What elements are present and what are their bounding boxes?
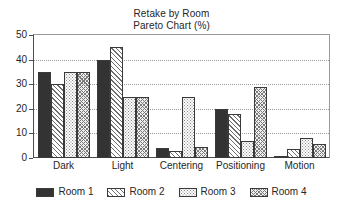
chart-title-block: Retake by Room Pareto Chart (%) [0, 8, 343, 32]
bar-group [211, 35, 270, 158]
bar[interactable] [136, 97, 149, 159]
bar[interactable] [38, 72, 51, 158]
bar[interactable] [228, 114, 241, 158]
bar[interactable] [156, 148, 169, 158]
chart-title: Retake by Room [0, 8, 343, 20]
bar[interactable] [287, 149, 300, 158]
bar-group [34, 35, 93, 158]
pareto-chart: Retake by Room Pareto Chart (%) 01020304… [0, 0, 343, 210]
y-tick-label: 10 [16, 128, 27, 138]
bar[interactable] [300, 138, 313, 158]
legend-label: Room 1 [58, 187, 93, 197]
x-tick-label: Positioning [216, 160, 265, 172]
bar[interactable] [241, 141, 254, 158]
chart-subtitle: Pareto Chart (%) [0, 20, 343, 32]
y-tick-mark [29, 158, 33, 159]
bar[interactable] [313, 144, 326, 158]
legend-item[interactable]: Room 2 [107, 187, 164, 197]
bar[interactable] [195, 147, 208, 158]
y-tick-label: 0 [21, 153, 27, 163]
bars-layer [34, 35, 329, 158]
y-tick-label: 20 [16, 104, 27, 114]
legend-item[interactable]: Room 4 [250, 187, 307, 197]
bar-group [93, 35, 152, 158]
legend-label: Room 4 [272, 187, 307, 197]
legend-swatch [179, 188, 197, 197]
bar[interactable] [215, 109, 228, 158]
x-tick-label: Motion [284, 160, 314, 172]
bar[interactable] [169, 151, 182, 158]
legend-swatch [107, 188, 125, 197]
x-tick-label: Dark [53, 160, 74, 172]
bar-group [270, 35, 329, 158]
bar[interactable] [254, 87, 267, 158]
legend-label: Room 2 [129, 187, 164, 197]
legend-swatch [250, 188, 268, 197]
bar[interactable] [64, 72, 77, 158]
bar[interactable] [123, 97, 136, 159]
legend-item[interactable]: Room 1 [36, 187, 93, 197]
bar[interactable] [77, 72, 90, 158]
y-tick-label: 50 [16, 30, 27, 40]
y-axis: 01020304050 [0, 28, 33, 164]
x-axis: DarkLightCenteringPositioningMotion [34, 160, 329, 174]
bar[interactable] [182, 97, 195, 159]
chart-legend: Room 1Room 2Room 3Room 4 [0, 182, 343, 202]
legend-swatch [36, 188, 54, 197]
x-tick-label: Centering [160, 160, 203, 172]
x-tick-label: Light [112, 160, 134, 172]
y-tick-label: 30 [16, 79, 27, 89]
bar[interactable] [97, 60, 110, 158]
bar[interactable] [274, 156, 287, 158]
bar[interactable] [51, 84, 64, 158]
legend-label: Room 3 [201, 187, 236, 197]
bar[interactable] [110, 47, 123, 158]
bar-group [152, 35, 211, 158]
legend-item[interactable]: Room 3 [179, 187, 236, 197]
y-tick-label: 40 [16, 55, 27, 65]
